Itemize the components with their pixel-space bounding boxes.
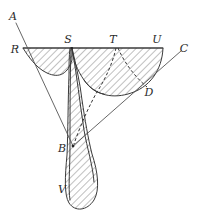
figure-canvas: A R S T U C D B V	[0, 0, 200, 216]
label-C: C	[180, 42, 189, 55]
label-B: B	[57, 142, 66, 155]
point-S-marker	[71, 47, 73, 49]
label-V: V	[58, 183, 67, 196]
label-R: R	[10, 43, 19, 56]
lune-shape	[23, 48, 72, 75]
label-D: D	[144, 86, 154, 99]
geometry-figure: A R S T U C D B V	[0, 0, 200, 216]
point-B-marker	[72, 145, 75, 148]
label-T: T	[109, 33, 118, 46]
label-A: A	[8, 10, 17, 23]
region-R-S-concave-lune	[23, 48, 72, 75]
label-U: U	[152, 33, 162, 46]
label-S: S	[64, 33, 72, 46]
